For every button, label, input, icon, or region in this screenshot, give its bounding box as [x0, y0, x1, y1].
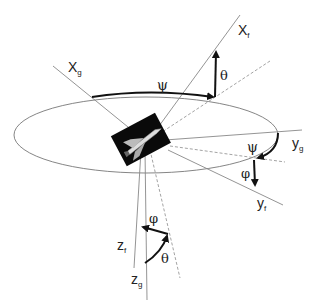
diagram-canvas: Xg Xf yg yf zg zf ψ θ ψ φ φ θ [0, 0, 314, 304]
y-flight-label: yf [257, 195, 267, 213]
x-flight-projection-dashed [150, 61, 270, 140]
theta-label-top: θ [220, 68, 228, 83]
y-flight-axis [168, 150, 283, 205]
psi-rotation-arrow-right [258, 133, 278, 158]
y-ground-label: yg [292, 135, 303, 153]
theta-label-bottom: θ [161, 251, 169, 266]
psi-label-top: ψ [157, 77, 168, 93]
y-ground-axis [165, 130, 302, 140]
x-flight-label: Xf [238, 22, 250, 40]
psi-rotation-arrow-top [92, 93, 213, 98]
phi-rotation-arrow-bottom [143, 227, 168, 234]
phi-label-bottom: φ [149, 211, 158, 226]
phi-label-right: φ [241, 166, 250, 181]
z-ground-axis [145, 150, 147, 300]
phi-rotation-arrow-right [254, 160, 255, 185]
z-ground-label: zg [131, 271, 142, 289]
psi-label-right: ψ [247, 139, 258, 155]
z-flight-label: zf [117, 237, 127, 255]
x-ground-axis [53, 66, 128, 127]
theta-rotation-arrow-top [215, 52, 216, 97]
z-flight-axis [134, 150, 141, 268]
x-ground-label: Xg [68, 59, 82, 77]
